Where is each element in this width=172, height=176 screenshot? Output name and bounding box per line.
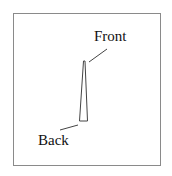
back-label: Back [38,133,69,148]
front-label: Front [94,29,127,44]
front-leader-line [89,49,107,62]
back-leader-line [60,125,78,130]
diagram-canvas [0,0,172,176]
tapered-object-shape [80,61,88,121]
